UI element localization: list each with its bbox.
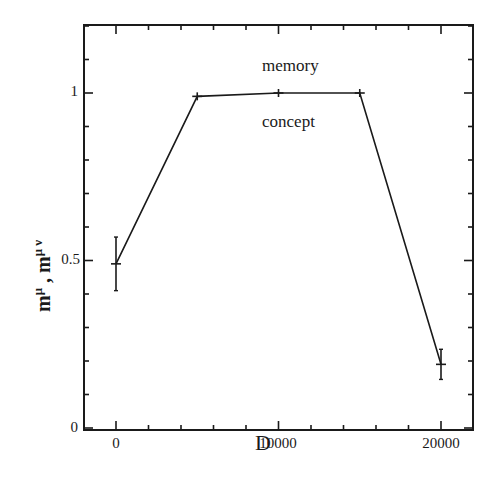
axis-ticks bbox=[84, 25, 473, 430]
plot-frame bbox=[84, 25, 473, 430]
y-label-sep: , m bbox=[32, 256, 54, 288]
y-tick-label-0: 0 bbox=[48, 419, 78, 436]
y-tick-label-1: 1 bbox=[48, 83, 78, 100]
annotation-memory: memory bbox=[262, 56, 319, 76]
x-axis-label: D bbox=[255, 430, 271, 456]
data-series bbox=[111, 89, 446, 379]
y-label-sup-munu: μ ν bbox=[30, 240, 45, 256]
y-axis-label: mμ , mμ ν bbox=[30, 240, 55, 312]
series-line bbox=[116, 93, 441, 364]
y-label-sup-mu: μ bbox=[30, 288, 45, 295]
x-tick-label-0: 0 bbox=[81, 435, 151, 452]
x-tick-label-20000: 20000 bbox=[406, 435, 476, 452]
chart-canvas bbox=[0, 0, 500, 490]
annotation-concept: concept bbox=[262, 112, 315, 132]
x-tick-label-10000: 10000 bbox=[243, 435, 313, 452]
y-label-m: m bbox=[32, 295, 54, 312]
